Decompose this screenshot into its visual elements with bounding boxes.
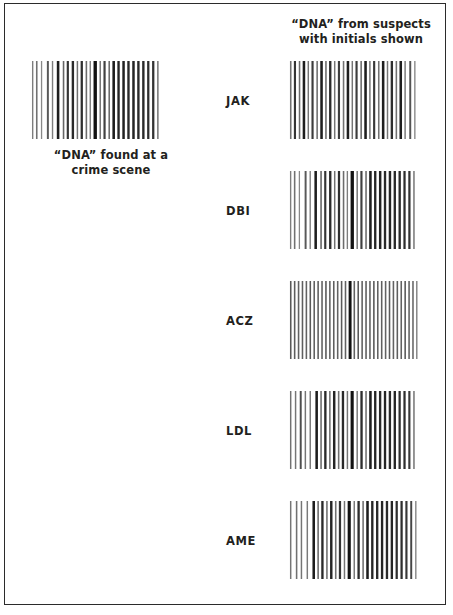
suspect-barcode-ldl bbox=[288, 391, 421, 469]
suspect-barcode-jak bbox=[288, 61, 421, 139]
suspects-header-caption: “DNA” from suspects with initials shown bbox=[281, 17, 441, 47]
figure-page: “DNA” from suspects with initials shown … bbox=[0, 0, 453, 615]
suspect-label-acz: ACZ bbox=[226, 314, 286, 328]
suspect-barcode-ame bbox=[288, 501, 421, 579]
suspect-label-ame: AME bbox=[226, 534, 286, 548]
suspect-label-ldl: LDL bbox=[226, 424, 286, 438]
suspect-barcode-acz bbox=[288, 281, 421, 359]
crime-scene-caption: “DNA” found at a crime scene bbox=[28, 148, 194, 178]
suspect-label-dbi: DBI bbox=[226, 204, 286, 218]
crime-scene-barcode bbox=[30, 61, 165, 139]
suspect-barcode-dbi bbox=[288, 171, 421, 249]
suspect-label-jak: JAK bbox=[226, 94, 286, 108]
